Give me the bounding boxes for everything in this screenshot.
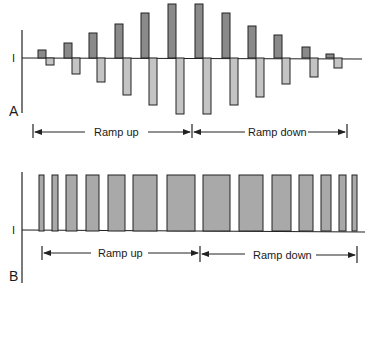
negative-pulse-bar — [46, 58, 54, 65]
positive-pulse-bar — [89, 33, 97, 58]
positive-pulse-bar — [326, 54, 334, 58]
pulse-width-bar — [108, 175, 125, 231]
positive-pulse-bar — [195, 4, 203, 58]
pulse-width-bar — [352, 175, 357, 231]
pulse-width-bar — [203, 175, 230, 231]
pulse-width-bar — [239, 175, 263, 231]
positive-pulse-bar — [38, 50, 46, 58]
negative-pulse-bar — [203, 58, 211, 114]
positive-pulse-bar — [168, 4, 176, 58]
positive-pulse-bar — [64, 43, 72, 58]
positive-pulse-bar — [115, 24, 123, 58]
positive-pulse-bar — [302, 47, 310, 58]
pulse-width-bar — [86, 175, 99, 231]
negative-pulse-bar — [256, 58, 264, 97]
negative-pulse-bar — [149, 58, 157, 105]
panel-b-current-label: I — [12, 224, 15, 236]
panel-b: I B Ramp up Ramp down — [9, 172, 365, 284]
negative-pulse-bar — [334, 58, 342, 68]
negative-pulse-bar — [97, 58, 105, 82]
pulse-width-bar — [321, 175, 331, 231]
negative-pulse-bar — [176, 58, 184, 114]
positive-pulse-bar — [274, 35, 282, 58]
pulse-width-bar — [39, 175, 44, 231]
positive-pulse-bar — [141, 13, 149, 58]
positive-pulse-bar — [222, 13, 230, 58]
pulse-width-bar — [66, 175, 77, 231]
pulse-width-bar — [52, 175, 58, 231]
pulse-modulation-diagram: I A Ramp up Ramp down I B Ramp up Ramp d… — [0, 0, 369, 339]
panel-b-bars — [39, 175, 357, 231]
panel-b-ramp-down-label: Ramp down — [253, 249, 312, 261]
panel-a: I A Ramp up Ramp down — [9, 4, 362, 138]
panel-a-label: A — [9, 103, 19, 119]
panel-a-ramp-down-label: Ramp down — [248, 126, 307, 138]
panel-b-ramp-up-label: Ramp up — [98, 247, 143, 259]
pulse-width-bar — [133, 175, 157, 231]
pulse-width-bar — [339, 175, 346, 231]
panel-a-ramp-up-label: Ramp up — [94, 126, 139, 138]
pulse-width-bar — [272, 175, 291, 231]
negative-pulse-bar — [282, 58, 290, 84]
negative-pulse-bar — [310, 58, 318, 77]
pulse-width-bar — [167, 175, 195, 231]
panel-b-label: B — [9, 268, 18, 284]
negative-pulse-bar — [230, 58, 238, 105]
panel-a-current-label: I — [12, 52, 15, 64]
negative-pulse-bar — [123, 58, 131, 95]
negative-pulse-bar — [72, 58, 80, 74]
positive-pulse-bar — [248, 26, 256, 58]
pulse-width-bar — [299, 175, 313, 231]
